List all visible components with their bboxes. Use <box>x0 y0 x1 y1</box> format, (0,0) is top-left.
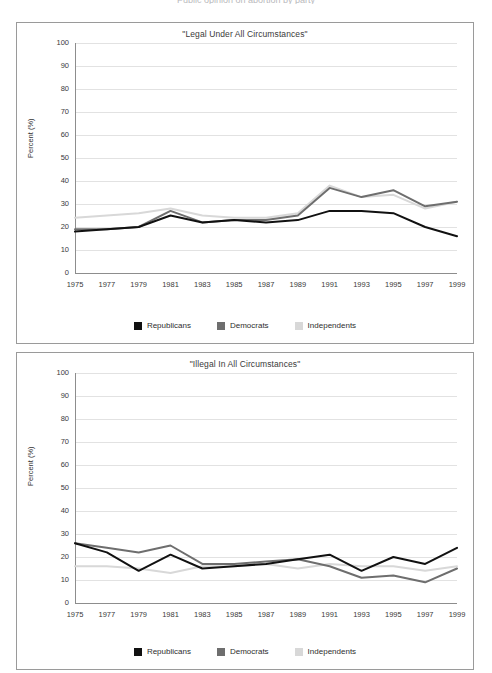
series-line-democrats <box>75 543 457 582</box>
series-canvas <box>17 23 475 345</box>
series-canvas <box>17 353 475 671</box>
series-line-independents <box>75 564 457 573</box>
plot-area-illegal: Percent (%)10090807060504030201001975197… <box>17 353 473 669</box>
legend-label: Democrats <box>230 647 269 656</box>
legend-swatch-icon <box>295 322 303 330</box>
chart-legend: RepublicansDemocratsIndependents <box>17 321 473 330</box>
legend-swatch-icon <box>217 322 225 330</box>
legend-swatch-icon <box>217 648 225 656</box>
cut-off-header: Public opinion on abortion by party <box>0 0 492 4</box>
series-line-republicans <box>75 211 457 236</box>
legend-label: Independents <box>308 321 357 330</box>
chart-panel-illegal: "Illegal In All Circumstances" Percent (… <box>16 352 474 670</box>
chart-legend: RepublicansDemocratsIndependents <box>17 647 473 656</box>
legend-swatch-icon <box>295 648 303 656</box>
legend-swatch-icon <box>134 648 142 656</box>
series-line-independents <box>75 186 457 218</box>
plot-area-legal: Percent (%)10090807060504030201001975197… <box>17 23 473 343</box>
charts-page: Public opinion on abortion by party "Leg… <box>0 0 492 673</box>
legend-item-independents[interactable]: Independents <box>295 321 357 330</box>
legend-item-republicans[interactable]: Republicans <box>134 321 191 330</box>
legend-item-independents[interactable]: Independents <box>295 647 357 656</box>
chart-panel-legal: "Legal Under All Circumstances" Percent … <box>16 22 474 344</box>
legend-label: Independents <box>308 647 357 656</box>
legend-item-democrats[interactable]: Democrats <box>217 321 269 330</box>
legend-label: Democrats <box>230 321 269 330</box>
legend-swatch-icon <box>134 322 142 330</box>
legend-label: Republicans <box>147 647 191 656</box>
legend-label: Republicans <box>147 321 191 330</box>
legend-item-republicans[interactable]: Republicans <box>134 647 191 656</box>
legend-item-democrats[interactable]: Democrats <box>217 647 269 656</box>
